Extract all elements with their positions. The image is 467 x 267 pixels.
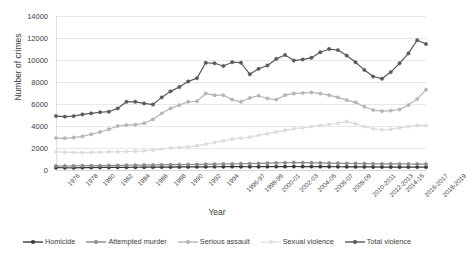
data-point [389, 128, 392, 131]
data-point [327, 123, 330, 126]
data-point [178, 85, 181, 88]
data-point [301, 165, 304, 168]
y-tick-label: 8000 [0, 78, 48, 87]
data-point [283, 161, 286, 164]
data-point [257, 134, 260, 137]
data-point [160, 112, 163, 115]
data-point [398, 126, 401, 129]
data-point [363, 162, 366, 165]
data-point [354, 101, 357, 104]
x-tick-label: 1986 [154, 172, 169, 187]
data-point [90, 164, 93, 167]
data-point [98, 150, 101, 153]
y-axis-tick-labels: 02000400060008000100001200014000 [0, 16, 52, 170]
data-point [81, 135, 84, 138]
data-point [407, 125, 410, 128]
legend-label: Attempted murder [108, 238, 166, 245]
data-point [142, 122, 145, 125]
data-point [283, 94, 286, 97]
data-point [257, 162, 260, 165]
data-point [230, 98, 233, 101]
data-point [380, 165, 383, 168]
data-point [248, 162, 251, 165]
data-point [248, 96, 251, 99]
legend-marker-icon [345, 238, 365, 246]
data-point [107, 128, 110, 131]
data-point [301, 161, 304, 164]
data-point [222, 64, 225, 67]
x-tick-label: 1996-97 [245, 172, 266, 193]
data-point [336, 48, 339, 51]
series-line [56, 90, 426, 139]
data-point [81, 113, 84, 116]
data-point [398, 162, 401, 165]
data-point [275, 165, 278, 168]
data-point [336, 165, 339, 168]
legend-item[interactable]: Total violence [345, 238, 411, 246]
data-point [275, 161, 278, 164]
data-point [310, 56, 313, 59]
legend-marker-icon [178, 238, 198, 246]
legend-label: Total violence [367, 238, 411, 245]
data-point [160, 163, 163, 166]
data-point [125, 150, 128, 153]
data-point [380, 77, 383, 80]
x-tick-label: 1994 [225, 172, 240, 187]
data-point [178, 103, 181, 106]
data-point [389, 109, 392, 112]
data-point [310, 161, 313, 164]
data-point [142, 149, 145, 152]
data-point [336, 122, 339, 125]
data-point [310, 165, 313, 168]
x-tick-label: 1988 [172, 172, 187, 187]
series-serious-assault [54, 88, 427, 140]
legend-marker-icon [86, 238, 106, 246]
legend-item[interactable]: Homicide [23, 238, 75, 246]
y-tick-label: 2000 [0, 144, 48, 153]
data-point [72, 164, 75, 167]
data-point [213, 62, 216, 65]
data-point [380, 128, 383, 131]
data-point [222, 162, 225, 165]
data-point [54, 150, 57, 153]
legend-label: Homicide [45, 238, 75, 245]
data-point [301, 58, 304, 61]
series-sexual-violence [54, 120, 427, 154]
data-point [275, 98, 278, 101]
data-point [407, 103, 410, 106]
data-point [424, 88, 427, 91]
data-point [116, 124, 119, 127]
data-point [327, 161, 330, 164]
data-point [283, 129, 286, 132]
data-point [169, 146, 172, 149]
data-point [54, 114, 57, 117]
data-point [345, 54, 348, 57]
legend-item[interactable]: Serious assault [178, 238, 250, 246]
x-axis-line [56, 170, 426, 171]
data-point [398, 108, 401, 111]
x-tick-label: 2008-09 [351, 172, 372, 193]
data-point [415, 39, 418, 42]
data-point [415, 162, 418, 165]
data-point [72, 136, 75, 139]
data-point [354, 122, 357, 125]
data-point [160, 96, 163, 99]
legend-marker-icon [261, 238, 281, 246]
data-point [310, 125, 313, 128]
data-point [248, 135, 251, 138]
data-point [204, 61, 207, 64]
data-point [407, 52, 410, 55]
data-point [292, 59, 295, 62]
data-point [195, 144, 198, 147]
data-point [266, 97, 269, 100]
data-point [266, 165, 269, 168]
y-tick-label: 4000 [0, 122, 48, 131]
data-point [230, 61, 233, 64]
legend-item[interactable]: Sexual violence [261, 238, 334, 246]
data-point [63, 164, 66, 167]
data-point [363, 165, 366, 168]
legend-item[interactable]: Attempted murder [86, 238, 166, 246]
data-point [371, 108, 374, 111]
data-point [98, 111, 101, 114]
data-point [398, 62, 401, 65]
